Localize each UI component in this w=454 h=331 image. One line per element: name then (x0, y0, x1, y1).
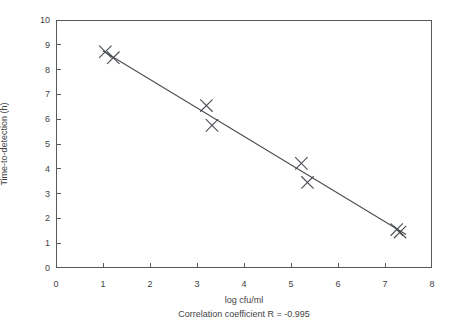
y-tick-label: 6 (26, 115, 50, 124)
fit-line (103, 51, 406, 235)
regression-line (103, 51, 406, 235)
x-tick-label: 6 (335, 280, 340, 289)
x-tick-label: 7 (382, 280, 387, 289)
y-tick-label: 8 (26, 65, 50, 74)
chart-figure: 012345678910 012345678 Time-to-detection… (0, 0, 454, 331)
x-tick-label: 3 (194, 280, 199, 289)
x-tick-label: 8 (429, 280, 434, 289)
x-axis-title: log cfu/ml (225, 295, 264, 305)
y-tick-label: 5 (26, 140, 50, 149)
data-point-marker-x (301, 176, 313, 188)
data-point-marker-x (206, 119, 218, 131)
y-tick-label: 10 (26, 16, 50, 25)
y-tick-label: 3 (26, 189, 50, 198)
x-tick-label: 4 (241, 280, 246, 289)
data-point-marker-x (394, 226, 406, 238)
y-tick-label: 2 (26, 214, 50, 223)
x-tick-label: 2 (147, 280, 152, 289)
y-axis-title: Time-to-detection (h) (0, 102, 9, 185)
x-axis-ticks (103, 263, 385, 268)
correlation-coefficient-label: Correlation coefficient R = -0.995 (178, 309, 310, 319)
y-tick-label: 1 (26, 239, 50, 248)
data-point-marker-x (107, 51, 119, 63)
data-point-marker-x (391, 223, 403, 235)
y-tick-label: 9 (26, 40, 50, 49)
y-tick-label: 7 (26, 90, 50, 99)
x-tick-label: 0 (53, 280, 58, 289)
data-point-marker-x (295, 157, 307, 169)
x-tick-label: 5 (288, 280, 293, 289)
y-axis-ticks (56, 45, 61, 243)
y-tick-label: 4 (26, 164, 50, 173)
y-tick-label: 0 (26, 264, 50, 273)
data-point-marker-x (200, 99, 212, 111)
data-point-marker-x (99, 46, 111, 58)
x-tick-label: 1 (100, 280, 105, 289)
